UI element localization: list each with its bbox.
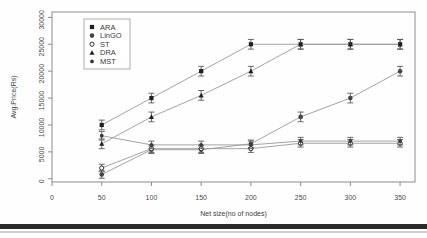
marker-circle-small [100, 134, 104, 138]
y-tick-label: 5000 [38, 146, 45, 162]
marker-circle [90, 33, 95, 38]
chart-svg: 0500010000150002000025000300000501001502… [0, 0, 427, 218]
marker-square [149, 96, 153, 100]
marker-circle-small [348, 139, 352, 143]
y-tick-label: 25000 [38, 37, 45, 57]
marker-circle [99, 172, 104, 177]
x-tick-label: 50 [98, 194, 106, 201]
marker-circle [298, 115, 303, 120]
marker-circle-small [199, 143, 203, 147]
x-tick-label: 200 [245, 194, 257, 201]
marker-square [249, 42, 253, 46]
x-tick-label: 350 [394, 194, 406, 201]
marker-triangle [248, 69, 253, 74]
series-line [102, 71, 400, 174]
marker-circle-small [90, 60, 94, 64]
series-line [102, 44, 400, 125]
legend-label-mst: MST [100, 57, 116, 66]
marker-circle-small [299, 139, 303, 143]
series-ara [99, 39, 403, 129]
marker-triangle [199, 93, 204, 98]
marker-square [90, 25, 94, 29]
marker-circle-open [100, 166, 104, 170]
marker-circle [348, 96, 353, 101]
bottom-dark-bar [0, 224, 427, 229]
marker-circle-small [150, 143, 154, 147]
marker-square [100, 123, 104, 127]
screenshot-root: 0500010000150002000025000300000501001502… [0, 0, 427, 238]
y-axis-label: Avg.Price(Rs) [10, 75, 18, 118]
x-axis-label: Net size(no of nodes) [200, 210, 267, 218]
marker-circle [398, 69, 403, 74]
marker-circle-open [90, 42, 94, 46]
x-tick-label: 150 [195, 194, 207, 201]
y-tick-label: 10000 [38, 118, 45, 138]
chart-figure: 0500010000150002000025000300000501001502… [0, 0, 427, 218]
x-tick-label: 0 [50, 194, 54, 201]
marker-circle-small [249, 143, 253, 147]
marker-circle-small [398, 139, 402, 143]
marker-square [199, 69, 203, 73]
y-tick-label: 0 [38, 179, 45, 183]
series-line [102, 44, 400, 144]
y-tick-label: 20000 [38, 64, 45, 84]
data-series-layer [99, 39, 403, 178]
marker-triangle [99, 141, 104, 146]
y-tick-label: 15000 [38, 91, 45, 111]
y-tick-label: 30000 [38, 10, 45, 30]
series-lingo [99, 66, 403, 178]
bottom-light-bar [0, 231, 427, 233]
chart-legend: ARALinGOSTDRAMST [84, 19, 130, 69]
x-tick-label: 250 [295, 194, 307, 201]
x-tick-label: 300 [345, 194, 357, 201]
x-tick-label: 100 [146, 194, 158, 201]
axes-layer: 0500010000150002000025000300000501001502… [10, 10, 406, 218]
